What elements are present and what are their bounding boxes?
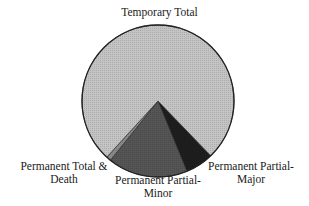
label-permanent-total-death: Permanent Total & Death — [14, 160, 114, 186]
label-permanent-partial-minor: Permanent Partial- Minor — [103, 174, 213, 200]
label-temporary-total: Temporary Total — [112, 6, 207, 19]
pie-slices — [82, 25, 234, 177]
